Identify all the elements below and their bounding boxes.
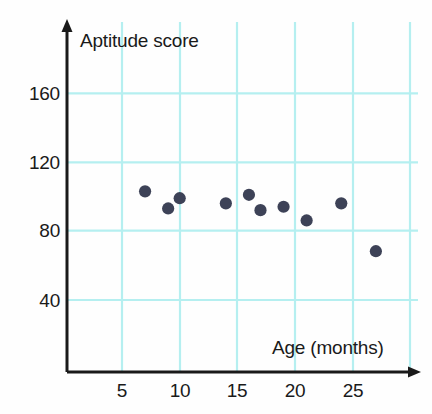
data-point [254, 204, 266, 216]
vertical-gridlines [122, 22, 410, 372]
data-point [243, 189, 255, 201]
data-points-group [139, 185, 382, 257]
data-point [174, 192, 186, 204]
x-tick-label-10: 10 [160, 380, 200, 402]
x-tick-label-5: 5 [102, 380, 142, 402]
x-axis-arrowhead [408, 367, 421, 378]
data-point [301, 214, 313, 226]
data-point [277, 201, 289, 213]
x-axis [67, 367, 421, 378]
data-point [220, 197, 232, 209]
y-axis-arrowhead [62, 19, 73, 32]
data-point [139, 185, 151, 197]
y-tick-label-80: 80 [18, 220, 60, 242]
y-tick-label-160: 160 [18, 83, 60, 105]
y-tick-label-40: 40 [18, 290, 60, 312]
data-point [370, 245, 382, 257]
scatter-plot-figure: 160 120 80 40 5 10 15 20 25 Aptitude sco… [0, 0, 432, 414]
x-axis-title: Age (months) [272, 337, 384, 359]
x-tick-label-15: 15 [217, 380, 257, 402]
y-tick-label-120: 120 [18, 152, 60, 174]
x-tick-label-20: 20 [275, 380, 315, 402]
x-tick-label-25: 25 [333, 380, 373, 402]
y-axis-title: Aptitude score [80, 30, 199, 52]
horizontal-gridlines [67, 93, 418, 300]
y-axis [62, 19, 73, 372]
data-point [162, 202, 174, 214]
data-point [335, 197, 347, 209]
